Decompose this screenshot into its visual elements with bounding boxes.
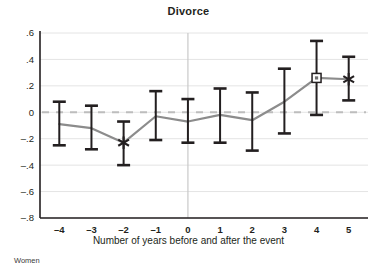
y-tick-label: 0	[29, 107, 34, 118]
x-tick-label: 5	[346, 224, 352, 235]
y-tick-label: .4	[26, 54, 34, 65]
x-tick-label: –1	[150, 224, 161, 235]
error-bar	[149, 91, 162, 140]
x-tick-label: 3	[282, 224, 287, 235]
y-tick-label: –.6	[21, 186, 34, 197]
plot-area: .6.4.20–.2–.4–.6–.8–4–3–2–1012345	[0, 0, 377, 235]
x-axis-title: Number of years before and after the eve…	[0, 235, 377, 246]
x-tick-label: –3	[86, 224, 97, 235]
y-tick-label: –.4	[21, 160, 34, 171]
marker-square-inner	[315, 76, 318, 79]
y-tick-label: –.2	[21, 133, 34, 144]
x-tick-label: 1	[217, 224, 223, 235]
y-tick-label: –.8	[21, 212, 34, 223]
chart-footnote: Women	[14, 256, 40, 265]
x-tick-label: 0	[185, 224, 190, 235]
x-tick-label: –4	[54, 224, 65, 235]
x-tick-label: 4	[314, 224, 320, 235]
y-tick-label: .6	[26, 27, 34, 38]
marker-square	[312, 73, 321, 82]
chart-figure: Divorce .6.4.20–.2–.4–.6–.8–4–3–2–101234…	[0, 0, 377, 270]
x-tick-label: 2	[250, 224, 255, 235]
y-tick-label: .2	[26, 80, 34, 91]
estimate-line	[59, 78, 348, 143]
error-bar	[246, 92, 259, 150]
error-bar	[278, 69, 291, 134]
x-tick-label: –2	[118, 224, 129, 235]
